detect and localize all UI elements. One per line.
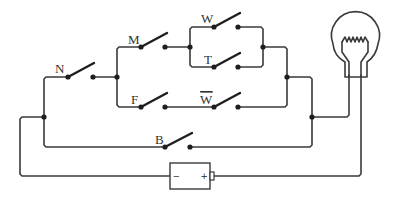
switch-label-w: W (201, 11, 214, 26)
switch-label-m: M (128, 32, 140, 47)
switch-w-bar[interactable]: W (200, 92, 241, 110)
switch-t[interactable]: T (204, 52, 241, 70)
switch-label-b: B (155, 132, 164, 147)
switch-label-t: T (204, 52, 212, 67)
filament (342, 37, 368, 42)
battery-negative-sign: − (173, 170, 179, 182)
switch-label-w-bar: W (200, 92, 213, 107)
switch-label-n: N (55, 61, 65, 76)
lamp-icon (332, 12, 380, 77)
circuit-diagram: N M W T F W B − + (0, 0, 396, 201)
battery-positive-sign: + (201, 170, 207, 182)
battery: − + (170, 163, 214, 189)
junction-dots (41, 44, 314, 119)
switch-f[interactable]: F (131, 92, 168, 110)
switch-label-f: F (131, 92, 138, 107)
switch-b[interactable]: B (155, 132, 193, 150)
switch-m[interactable]: M (128, 32, 168, 50)
battery-positive-terminal (210, 172, 214, 180)
